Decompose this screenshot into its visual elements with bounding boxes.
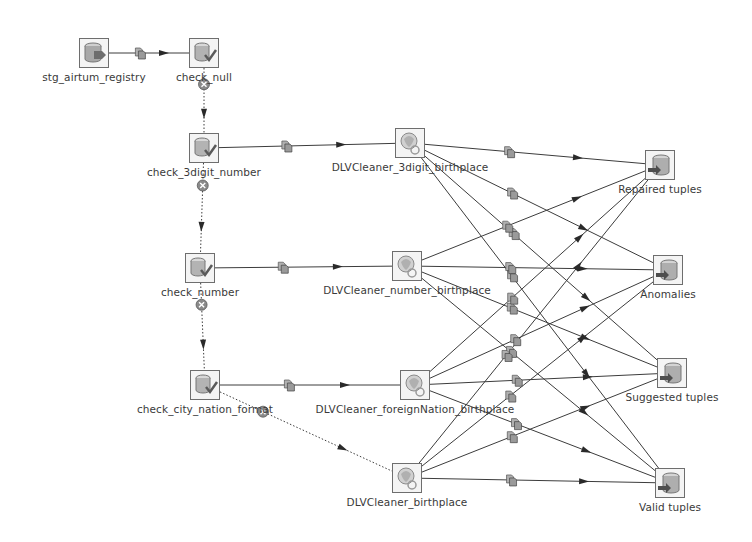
node-stg_airtum_registry[interactable] <box>79 38 109 68</box>
row-flow-icon <box>505 147 515 158</box>
node-dlv_number[interactable] <box>392 251 422 281</box>
node-label: DLVCleaner_foreignNation_birthplace <box>316 403 515 415</box>
node-label: Repaired tuples <box>618 183 702 195</box>
node-check_3digit_number[interactable] <box>189 133 219 163</box>
node-repaired[interactable] <box>645 150 675 180</box>
reject-connector-icon <box>197 180 208 191</box>
arrowhead-icon <box>579 303 591 313</box>
node-label: Suggested tuples <box>625 391 718 403</box>
cleaner-icon <box>393 252 421 280</box>
arrowhead-icon <box>201 109 207 119</box>
node-label: DLVCleaner_3digit_birthplace <box>332 161 489 173</box>
row-flow-icon <box>507 475 517 486</box>
node-label: check_number <box>161 286 239 298</box>
output-table-icon <box>654 256 682 284</box>
row-flow-icon <box>282 141 292 152</box>
row-flow-icon <box>508 293 518 304</box>
output-table-icon <box>646 151 674 179</box>
node-label: check_null <box>176 71 232 83</box>
arrowhead-icon <box>581 446 592 455</box>
node-check_null[interactable] <box>189 38 219 68</box>
node-dlv_3digit[interactable] <box>395 128 425 158</box>
node-label: check_city_nation_format <box>137 403 273 415</box>
node-label: stg_airtum_registry <box>42 71 146 83</box>
row-flow-icon <box>507 303 517 314</box>
row-flow-icon <box>512 419 522 430</box>
edge-dlv_foreign-to-repaired[interactable] <box>430 178 645 371</box>
cleaner-icon <box>396 129 424 157</box>
row-flow-icon <box>503 221 513 232</box>
arrowhead-icon <box>580 403 592 412</box>
node-check_city_nation_format[interactable] <box>190 370 220 400</box>
arrowhead-icon <box>337 444 349 454</box>
arrowhead-icon <box>200 340 206 350</box>
edge-dlv_number-to-anomalies[interactable] <box>422 266 653 270</box>
row-flow-icon <box>135 48 145 59</box>
arrowhead-icon <box>571 193 583 202</box>
output-table-icon <box>658 359 686 387</box>
arrowhead-icon <box>340 382 350 388</box>
node-label: check_3digit_number <box>147 166 261 178</box>
node-valid[interactable] <box>655 468 685 498</box>
row-flow-icon <box>511 335 521 346</box>
reject-connector-icon <box>196 299 207 310</box>
filter-icon <box>190 39 218 67</box>
node-label: DLVCleaner_birthplace <box>347 496 468 508</box>
row-flow-icon <box>278 262 288 273</box>
output-table-icon <box>656 469 684 497</box>
cleaner-icon <box>393 464 421 492</box>
node-check_number[interactable] <box>185 253 215 283</box>
node-label: Valid tuples <box>639 501 701 513</box>
node-label: DLVCleaner_number_birthplace <box>323 284 491 296</box>
arrowhead-icon <box>579 478 589 484</box>
edge-dlv_birthplace-to-suggested[interactable] <box>422 379 657 472</box>
node-dlv_birthplace[interactable] <box>392 463 422 493</box>
node-suggested[interactable] <box>657 358 687 388</box>
node-dlv_foreign[interactable] <box>400 370 430 400</box>
row-flow-icon <box>512 375 522 386</box>
arrowhead-icon <box>198 222 204 232</box>
edge-check_number-to-dlv_number[interactable] <box>215 266 392 268</box>
edge-dlv_foreign-to-suggested[interactable] <box>430 374 657 385</box>
cleaner-icon <box>401 371 429 399</box>
filter-icon <box>191 371 219 399</box>
edge-dlv_number-to-repaired[interactable] <box>422 171 645 260</box>
arrowhead-icon <box>573 154 583 161</box>
node-anomalies[interactable] <box>653 255 683 285</box>
arrowhead-icon <box>333 264 343 270</box>
row-flow-icon <box>284 380 294 391</box>
node-label: Anomalies <box>640 288 696 300</box>
arrowhead-icon <box>159 50 169 56</box>
row-flow-icon <box>508 188 518 199</box>
edge-dlv_birthplace-to-valid[interactable] <box>422 478 655 482</box>
arrowhead-icon <box>336 142 346 148</box>
filter-icon <box>190 134 218 162</box>
edge-check_3digit_number-to-dlv_3digit[interactable] <box>219 143 395 147</box>
source-table-icon <box>80 39 108 67</box>
row-flow-icon <box>507 432 517 443</box>
filter-icon <box>186 254 214 282</box>
edge-dlv_number-to-valid[interactable] <box>422 278 655 470</box>
arrowhead-icon <box>578 224 590 234</box>
